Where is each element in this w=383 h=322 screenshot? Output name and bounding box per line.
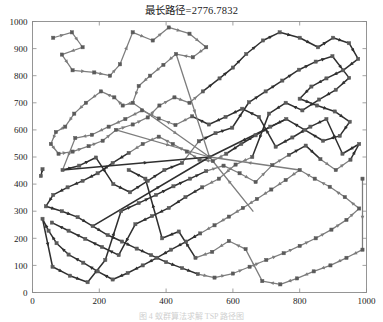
y-tick-label: 100: [14, 261, 28, 271]
y-tick-label: 500: [14, 152, 28, 162]
y-tick-label: 700: [14, 98, 28, 108]
x-tick-label: 400: [159, 296, 173, 306]
y-tick-label: 600: [14, 125, 28, 135]
x-tick-label: 0: [30, 296, 35, 306]
tsp-plot-svg: 0200400600800100001002003004005006007008…: [0, 0, 383, 322]
x-tick-label: 200: [93, 296, 107, 306]
x-tick-label: 800: [293, 296, 307, 306]
y-tick-label: 200: [14, 234, 28, 244]
x-tick-label: 1000: [358, 296, 377, 306]
y-tick-label: 900: [14, 44, 28, 54]
y-tick-label: 1000: [10, 17, 29, 27]
figure-caption: 图 4 蚁群算法求解 TSP 路径图: [0, 310, 383, 321]
y-tick-label: 400: [14, 179, 28, 189]
tsp-route-figure: 最长路径=2776.7832 0200400600800100001002003…: [0, 0, 383, 322]
y-tick-label: 0: [23, 288, 28, 298]
route-edges: [41, 27, 365, 285]
x-tick-label: 600: [226, 296, 240, 306]
route-nodes: [39, 26, 364, 286]
y-tick-label: 300: [14, 206, 28, 216]
y-tick-label: 800: [14, 71, 28, 81]
